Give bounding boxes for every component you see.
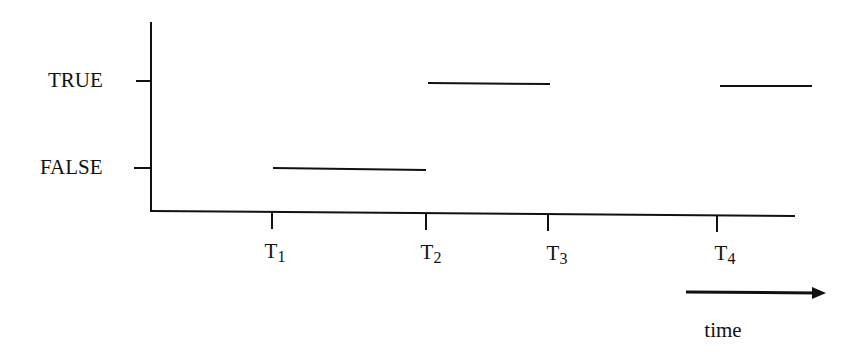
time-arrow-shaft (686, 292, 816, 293)
y-label-true: TRUE (48, 70, 103, 91)
tick-sub: 2 (433, 249, 441, 266)
segment-true-t2-t3 (428, 83, 550, 84)
tick-sub: 1 (277, 248, 285, 265)
x-label-t2: T2 (421, 242, 442, 266)
x-axis-label-time: time (704, 320, 741, 341)
tick-main: T (547, 241, 560, 265)
tick-main: T (265, 239, 278, 263)
time-arrow-head-icon (812, 287, 826, 299)
segment-false-t1-t2 (273, 168, 426, 170)
x-axis (150, 211, 795, 216)
tick-sub: 4 (727, 250, 735, 267)
x-label-t1: T1 (265, 241, 286, 265)
y-label-false: FALSE (40, 157, 103, 178)
x-label-t3: T3 (547, 243, 568, 267)
x-label-t4: T4 (715, 243, 736, 267)
tick-main: T (715, 241, 728, 265)
timing-diagram (0, 0, 866, 357)
tick-sub: 3 (559, 250, 567, 267)
tick-main: T (421, 240, 434, 264)
